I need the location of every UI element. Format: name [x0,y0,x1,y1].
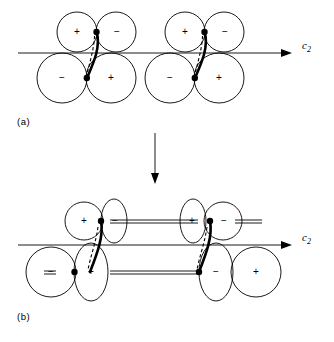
bond-a-right [195,32,206,78]
node-a-left-upper [93,29,99,35]
orbital-interaction-figure: + − − + + − − + [0,0,334,342]
sign-a-right-upper-right: − [222,26,228,37]
orbital-group-a-left: + − − + [37,12,136,103]
orbital-group-a-right: + − − + [145,12,244,103]
bond-b-left [90,221,102,272]
panel-a: + − − + + − − + [17,12,311,127]
interchain-links [44,220,262,274]
panel-b-axis-label: c2 [302,231,311,246]
node-a-left-lower [84,75,90,81]
sign-b-right-lower-right: + [253,266,259,277]
bond-a-left [87,32,98,78]
node-a-right-lower [192,75,198,81]
panel-b-label: (b) [17,311,30,322]
panel-a-axis-label: c2 [302,39,311,54]
node-b-left-lower [71,269,77,275]
orbital-group-b-left: + − − + [26,199,127,301]
downward-transition-arrow [151,133,159,184]
transition-arrow-head [151,173,159,184]
sign-a-left-upper-right: − [114,26,120,37]
panel-b-axis-arrowhead [281,241,292,249]
sign-b-right-lower-left: − [213,266,219,277]
sign-b-left-upper-right: − [112,215,118,226]
node-b-right-lower [196,269,202,275]
sign-b-right-upper-left: + [189,215,195,226]
sign-b-left-lower-left: − [48,266,54,277]
panel-a-axis-arrowhead [281,49,292,57]
node-b-right-upper [207,218,213,224]
sign-a-left-lower-right: + [108,72,114,83]
node-b-left-upper [98,218,104,224]
node-a-right-upper [201,29,207,35]
panel-b: + − − + + − − [17,199,311,322]
sign-a-right-upper-left: + [182,26,188,37]
sign-a-left-upper-left: + [74,26,80,37]
sign-b-right-upper-right: − [221,215,227,226]
sign-b-left-upper-left: + [81,215,87,226]
sign-a-right-lower-left: − [167,72,173,83]
sign-a-left-lower-left: − [59,72,65,83]
panel-a-label: (a) [17,116,30,127]
sign-a-right-lower-right: + [216,72,222,83]
orbital-group-b-right: + − − + [180,199,281,301]
